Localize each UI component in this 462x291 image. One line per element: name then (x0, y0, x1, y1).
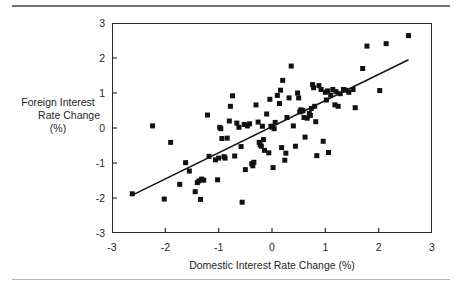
y-axis-title-line-2: Rate Change (14, 109, 102, 122)
data-point-marker (271, 165, 276, 170)
x-tick-label: -2 (161, 242, 170, 253)
data-point-marker (280, 78, 285, 83)
y-tick-label: 0 (99, 123, 105, 134)
y-tick-label: 3 (99, 18, 105, 29)
data-point-marker (291, 123, 296, 128)
data-point-marker (267, 97, 272, 102)
data-point-marker (240, 200, 245, 205)
data-point-marker (262, 148, 267, 153)
data-point-marker (384, 41, 389, 46)
data-point-marker (287, 95, 292, 100)
data-point-marker (296, 95, 301, 100)
x-tick-label: -3 (107, 242, 116, 253)
data-point-marker (377, 88, 382, 93)
data-point-marker (326, 150, 331, 155)
data-point-marker (303, 135, 308, 140)
data-point-marker (193, 189, 198, 194)
data-point-marker (162, 197, 167, 202)
x-axis-title: Domestic Interest Rate Change (%) (112, 259, 432, 271)
data-point-marker (215, 177, 220, 182)
data-point-marker (225, 136, 230, 141)
data-point-marker (312, 104, 317, 109)
data-point-marker (261, 137, 266, 142)
data-point-marker (275, 93, 280, 98)
plot-area: -3-2-10123-3-2-10123 (112, 23, 432, 233)
data-point-marker (289, 64, 294, 69)
data-point-marker (230, 93, 235, 98)
data-point-marker (324, 98, 329, 103)
data-point-marker (314, 153, 319, 158)
data-point-marker (177, 182, 182, 187)
data-point-marker (406, 33, 411, 38)
data-point-marker (273, 120, 278, 125)
data-point-marker (256, 120, 261, 125)
data-point-marker (205, 113, 210, 118)
data-point-marker (279, 145, 284, 150)
data-point-marker (346, 90, 351, 95)
data-point-marker (198, 197, 203, 202)
data-point-marker (260, 124, 265, 129)
top-divider-rule (12, 5, 450, 7)
data-point-marker (300, 108, 305, 113)
data-point-marker (130, 191, 135, 196)
y-tick-label: -2 (96, 193, 105, 204)
data-point-marker (308, 113, 313, 118)
data-points (130, 33, 411, 205)
data-point-marker (284, 115, 289, 120)
data-point-marker (150, 123, 155, 128)
data-point-marker (353, 105, 358, 110)
data-point-marker (360, 66, 365, 71)
data-point-marker (272, 126, 277, 131)
data-point-marker (293, 144, 298, 149)
x-tick-label: 2 (376, 242, 382, 253)
data-point-marker (251, 160, 256, 165)
x-tick-label: 0 (269, 242, 275, 253)
x-tick-label: -1 (214, 242, 223, 253)
data-point-marker (168, 140, 173, 145)
axis-ticks (112, 58, 379, 233)
y-axis-title-line-3: (%) (14, 122, 102, 135)
data-point-marker (278, 88, 283, 93)
data-point-marker (321, 139, 326, 144)
data-point-marker (227, 119, 232, 124)
data-point-marker (266, 150, 271, 155)
data-point-marker (223, 156, 228, 161)
data-point-marker (201, 178, 206, 183)
data-point-marker (364, 44, 369, 49)
figure-container: Foreign Interest Rate Change (%) Domesti… (0, 0, 462, 291)
y-tick-label: 2 (99, 53, 105, 64)
data-point-marker (334, 89, 339, 94)
data-point-marker (277, 101, 282, 106)
x-tick-label: 1 (322, 242, 328, 253)
data-point-marker (283, 151, 288, 156)
data-point-marker (313, 119, 318, 124)
y-axis-title-line-1: Foreign Interest (14, 96, 102, 109)
y-tick-label: -3 (96, 228, 105, 239)
scatter-plot-canvas (112, 23, 432, 233)
bottom-divider-rule (12, 279, 450, 280)
data-point-marker (328, 93, 333, 98)
data-point-marker (351, 87, 356, 92)
data-point-marker (207, 154, 212, 159)
x-tick-label: 3 (429, 242, 435, 253)
y-axis-title: Foreign Interest Rate Change (%) (14, 96, 102, 135)
data-point-marker (218, 126, 223, 131)
data-point-marker (219, 136, 224, 141)
data-point-marker (239, 144, 244, 149)
data-point-marker (247, 121, 252, 126)
data-point-marker (319, 87, 324, 92)
data-point-marker (187, 169, 192, 174)
data-point-marker (232, 154, 237, 159)
data-point-marker (282, 158, 287, 163)
data-point-marker (264, 112, 269, 117)
data-point-marker (216, 156, 221, 161)
data-point-marker (254, 102, 259, 107)
data-point-marker (336, 104, 341, 109)
data-point-marker (243, 167, 248, 172)
data-point-marker (236, 125, 241, 130)
data-point-marker (228, 104, 233, 109)
y-tick-label: 1 (99, 88, 105, 99)
y-tick-label: -1 (96, 158, 105, 169)
data-point-marker (183, 160, 188, 165)
data-point-marker (311, 85, 316, 90)
